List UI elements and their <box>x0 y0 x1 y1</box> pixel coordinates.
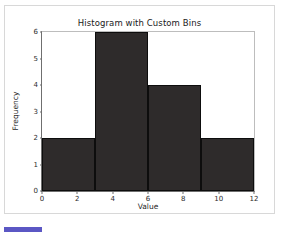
y-tick-mark <box>40 164 43 165</box>
y-tick-label: 0 <box>34 187 38 195</box>
x-tick-mark <box>218 191 219 194</box>
y-tick-mark <box>40 58 43 59</box>
plot-area: 0123456 024681012 <box>41 31 255 192</box>
chart-title: Histogram with Custom Bins <box>5 18 274 28</box>
histogram-bar <box>42 138 95 191</box>
histogram-figure: Histogram with Custom Bins 0123456 02468… <box>5 6 274 213</box>
y-tick-label: 3 <box>34 108 38 116</box>
x-tick-mark <box>77 191 78 194</box>
histogram-bar <box>95 32 148 191</box>
chart-card: Histogram with Custom Bins 0123456 02468… <box>4 5 275 214</box>
y-tick-mark <box>40 32 43 33</box>
y-tick-label: 1 <box>34 161 38 169</box>
y-axis-label: Frequency <box>11 92 20 131</box>
x-tick-mark <box>183 191 184 194</box>
y-tick-label: 2 <box>34 134 38 142</box>
x-tick-mark <box>148 191 149 194</box>
progress-bar[interactable] <box>4 227 42 232</box>
y-tick-label: 5 <box>34 55 38 63</box>
y-tick-label: 6 <box>34 28 38 36</box>
bars-layer <box>42 32 254 191</box>
x-tick-mark <box>112 191 113 194</box>
histogram-bar <box>148 85 201 191</box>
y-tick-mark <box>40 111 43 112</box>
y-tick-label: 4 <box>34 81 38 89</box>
x-tick-mark <box>42 191 43 194</box>
x-tick-mark <box>254 191 255 194</box>
histogram-bar <box>201 138 254 191</box>
x-axis-label: Value <box>41 202 255 211</box>
y-tick-mark <box>40 138 43 139</box>
y-tick-mark <box>40 85 43 86</box>
